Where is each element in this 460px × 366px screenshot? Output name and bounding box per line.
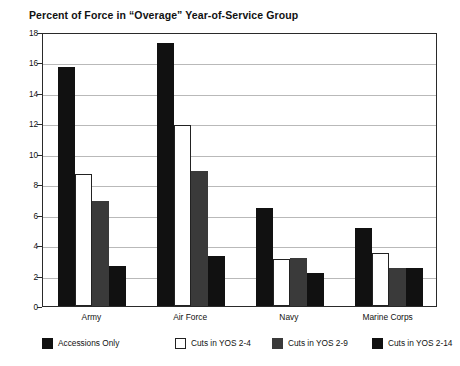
legend-swatch-icon [42,338,53,349]
bar-group-navy [256,34,324,306]
legend-item[interactable]: Cuts in YOS 2-9 [272,336,348,350]
bar[interactable] [256,208,273,306]
bar[interactable] [208,256,225,306]
bar[interactable] [273,259,290,306]
y-tick-label: 0 [4,303,38,312]
bar[interactable] [307,273,324,306]
bar[interactable] [157,43,174,306]
y-tick-label: 16 [4,59,38,68]
legend-swatch-icon [272,338,283,349]
bar[interactable] [406,268,423,306]
y-axis: 024681012141618 [0,33,38,307]
bar[interactable] [191,171,208,306]
x-tick-label-marine-corps: Marine Corps [362,312,412,322]
y-tick-label: 2 [4,272,38,281]
x-tick-label-army: Army [82,312,102,322]
y-tick-mark [37,307,42,308]
bar[interactable] [389,268,406,306]
bar[interactable] [372,253,389,306]
bar-group-army [58,34,126,306]
plot-area [42,33,437,307]
bar[interactable] [75,174,92,306]
legend-item[interactable]: Cuts in YOS 2-4 [175,336,251,350]
legend-item[interactable]: Cuts in YOS 2-14 [372,336,452,350]
bar-chart: Percent of Force in “Overage” Year-of-Se… [0,0,460,366]
bar[interactable] [174,125,191,306]
legend-label: Accessions Only [58,338,119,348]
legend-label: Cuts in YOS 2-14 [388,338,452,348]
chart-legend: Accessions OnlyCuts in YOS 2-4Cuts in YO… [42,336,442,354]
legend-label: Cuts in YOS 2-4 [191,338,251,348]
y-tick-label: 10 [4,150,38,159]
y-tick-label: 14 [4,89,38,98]
y-tick-label: 12 [4,120,38,129]
y-tick-label: 4 [4,242,38,251]
x-tick-label-air-force: Air Force [173,312,207,322]
bar[interactable] [290,258,307,306]
bar[interactable] [109,266,126,306]
legend-swatch-icon [372,338,383,349]
bar[interactable] [355,228,372,306]
legend-item[interactable]: Accessions Only [42,336,119,350]
legend-swatch-icon [175,338,186,349]
plot-inner [43,34,436,306]
legend-label: Cuts in YOS 2-9 [288,338,348,348]
x-tick-label-navy: Navy [279,312,298,322]
y-tick-label: 8 [4,181,38,190]
y-tick-label: 18 [4,29,38,38]
chart-title: Percent of Force in “Overage” Year-of-Se… [29,9,298,21]
y-tick-label: 6 [4,211,38,220]
bar[interactable] [92,201,109,306]
bar-group-marine-corps [355,34,423,306]
bar[interactable] [58,67,75,306]
bar-group-air-force [157,34,225,306]
